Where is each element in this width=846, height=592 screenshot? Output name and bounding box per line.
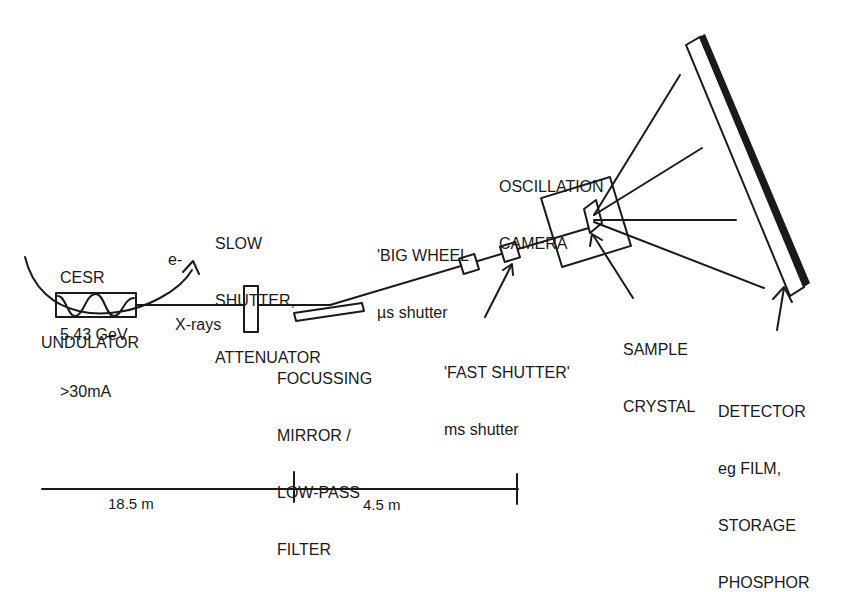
diffracted-ray: [594, 75, 680, 215]
slow-shutter-label-line: SLOW: [215, 234, 321, 253]
ring-name: CESR: [60, 268, 128, 287]
sample-label-line: CRYSTAL: [623, 397, 695, 416]
sample-label-line: SAMPLE: [623, 340, 695, 359]
camera-label-line: OSCILLATION: [499, 177, 604, 196]
detector-label-line: eg FILM,: [718, 459, 810, 478]
mirror-label-line: LOW-PASS: [277, 483, 372, 502]
undulator-label: UNDULATOR: [41, 333, 139, 352]
slow-shutter-label-line: SHUTTER,: [215, 291, 321, 310]
fast-shutter-label-line: 'FAST SHUTTER': [444, 363, 570, 382]
detector-plate: [686, 34, 810, 296]
ring-current: >30mA: [60, 382, 128, 401]
fast-shutter-label: 'FAST SHUTTER' ms shutter: [444, 325, 570, 477]
detector-label-line: PHOSPHOR: [718, 573, 810, 592]
big-wheel-label-line: 'BIG WHEEL: [377, 246, 469, 265]
scale-label-second: 4.5 m: [363, 495, 401, 514]
camera-label-line: CAMERA: [499, 234, 604, 253]
detector-label-line: STORAGE: [718, 516, 810, 535]
big-wheel-label-line: µs shutter: [377, 303, 469, 322]
mirror-label-line: FILTER: [277, 540, 372, 559]
detector-label: DETECTOR eg FILM, STORAGE PHOSPHOR: [718, 364, 810, 592]
electron-label: e-: [168, 250, 182, 269]
scale-label-first: 18.5 m: [108, 494, 154, 513]
camera-label: OSCILLATION CAMERA: [499, 139, 604, 291]
diffracted-ray: [594, 148, 702, 215]
mirror-label-line: FOCUSSING: [277, 369, 372, 388]
sample-label: SAMPLE CRYSTAL: [623, 302, 695, 454]
detector-label-line: DETECTOR: [718, 402, 810, 421]
mirror-label: FOCUSSING MIRROR / LOW-PASS FILTER: [277, 331, 372, 592]
mirror-label-line: MIRROR /: [277, 426, 372, 445]
fast-shutter-label-line: ms shutter: [444, 420, 570, 439]
